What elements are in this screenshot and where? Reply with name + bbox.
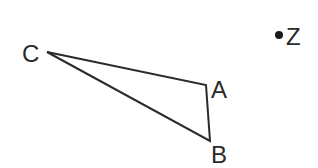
- vertex-label-b: B: [211, 141, 227, 168]
- triangle-outline: [47, 52, 210, 141]
- point-label-z: Z: [286, 23, 301, 50]
- point-z: Z: [275, 23, 301, 50]
- vertex-label-a: A: [211, 76, 227, 103]
- geometry-diagram: C A B Z: [0, 0, 318, 168]
- point-z-dot-icon: [275, 31, 283, 39]
- triangle-cab: [47, 52, 210, 141]
- vertex-label-c: C: [22, 40, 39, 67]
